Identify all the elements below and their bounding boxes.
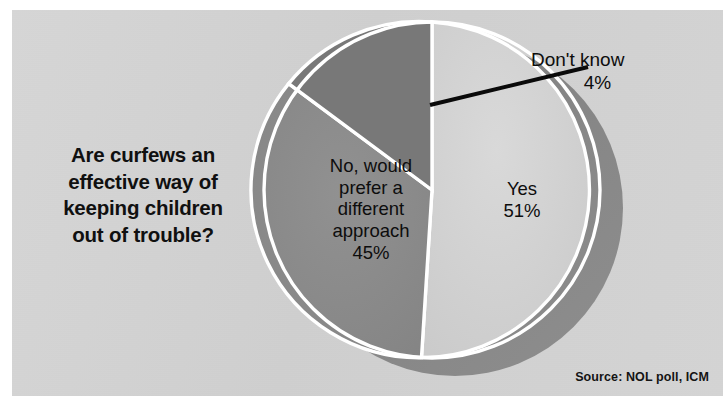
pie-label-no: No, would prefer a different approach 45… [300,155,442,263]
chart-panel: Are curfews an effective way of keeping … [12,10,723,396]
chart-image: Are curfews an effective way of keeping … [0,0,725,398]
pie-label-dont-know-percent: 4% [531,72,716,94]
pie-label-dont-know-name: Don't know [531,49,624,70]
pie-label-dont-know: Don't know 4% [531,27,716,117]
page-title: Are curfews an effective way of keeping … [28,142,258,249]
pie-label-yes: Yes 51% [467,178,577,221]
source-credit: Source: NOL poll, ICM [575,370,709,384]
